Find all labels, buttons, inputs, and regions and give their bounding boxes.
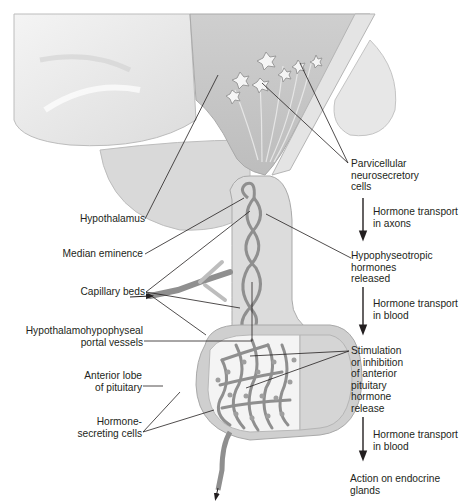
label-anterior-lobe: Anterior lobe of pituitary: [50, 370, 142, 393]
label-portal-vessels: Hypothalamohypophyseal portal vessels: [4, 325, 143, 348]
flow-step-stimulation: Stimulation or inhibition of anterior pi…: [351, 345, 403, 414]
label-median-eminence: Median eminence: [40, 248, 143, 260]
flow-step-hypophyseotropic: Hypophyseotropic hormones released: [351, 250, 433, 285]
flow-step-parvicellular: Parvicellular neurosecretory cells: [351, 158, 419, 193]
brain-lobe-left: [14, 14, 196, 146]
flow-transition-blood-2: Hormone transport in blood: [373, 429, 458, 452]
label-hypothalamus: Hypothalamus: [70, 213, 145, 225]
pituitary-stalk: [230, 176, 315, 335]
label-capillary-beds: Capillary beds: [60, 286, 145, 298]
flow-transition-axons: Hormone transport in axons: [373, 206, 458, 229]
flow-step-action: Action on endocrine glands: [350, 473, 440, 496]
label-hormone-secreting-cells: Hormone- secreting cells: [50, 416, 142, 439]
flow-transition-blood-1: Hormone transport in blood: [373, 298, 458, 321]
